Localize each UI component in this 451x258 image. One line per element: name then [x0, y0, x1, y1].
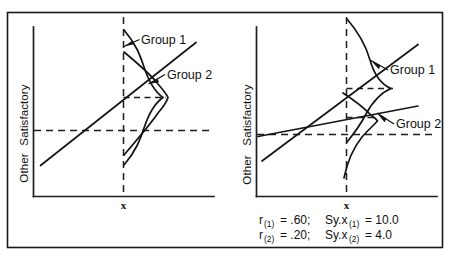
left-group2-label: Group 2	[167, 68, 212, 82]
left-regression-line	[41, 43, 197, 166]
stat-se-symbol-1: Sy.x	[325, 213, 347, 227]
stat-se-subscript-1: (1)	[349, 219, 360, 229]
stat-se-symbol-2: Sy.x	[325, 228, 347, 242]
statistics-figure: Satisfactory Other x Group 1 Group 2	[0, 0, 451, 258]
stat-r-subscript-2: (2)	[264, 234, 275, 244]
left-x-tick-label: x	[121, 199, 127, 211]
stat-r-symbol-2: r	[259, 228, 263, 242]
left-y-axis-lower-label: Other	[18, 153, 30, 182]
stat-r-subscript-1: (1)	[264, 219, 275, 229]
right-group2-regression-line	[258, 106, 418, 137]
left-group1-label: Group 1	[141, 33, 186, 47]
right-group2-distribution	[343, 93, 378, 178]
stat-r-value-1: = .60;	[280, 213, 310, 227]
right-y-axis-lower-label: Other	[241, 155, 253, 184]
left-group2-distribution	[124, 52, 168, 155]
left-panel: Satisfactory Other x Group 1 Group 2	[18, 17, 214, 211]
stat-se-value-2: = 4.0	[365, 228, 392, 242]
right-y-axis-upper-label: Satisfactory	[241, 84, 253, 145]
statistics-row-2: r (2) = .20; Sy.x (2) = 4.0	[259, 228, 392, 244]
right-x-tick-label: x	[344, 199, 350, 211]
right-group2-label: Group 2	[396, 117, 441, 131]
figure-container: Satisfactory Other x Group 1 Group 2	[0, 0, 451, 258]
left-group1-arrowhead	[124, 41, 134, 47]
stat-se-value-1: = 10.0	[365, 213, 399, 227]
stat-r-value-2: = .20;	[280, 228, 310, 242]
stat-se-subscript-2: (2)	[349, 234, 360, 244]
right-panel: Satisfactory Other x Group 1 Group 2	[241, 17, 441, 211]
left-y-axis-upper-label: Satisfactory	[18, 84, 30, 145]
statistics-row-1: r (1) = .60; Sy.x (1) = 10.0	[259, 213, 399, 229]
right-group1-regression-line	[262, 45, 418, 162]
statistics-caption: r (1) = .60; Sy.x (1) = 10.0 r (2) = .20…	[259, 213, 399, 244]
right-group1-label: Group 1	[390, 63, 435, 77]
stat-r-symbol-1: r	[259, 213, 263, 227]
